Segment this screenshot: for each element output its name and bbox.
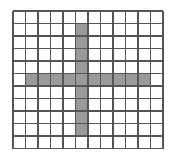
grid-cell-empty bbox=[13, 36, 26, 49]
grid-cell-empty bbox=[13, 61, 26, 74]
grid-cell-empty bbox=[51, 24, 64, 37]
grid-cell-empty bbox=[51, 61, 64, 74]
grid-cell-empty bbox=[126, 86, 139, 99]
grid-cell-empty bbox=[151, 86, 164, 99]
grid-line-vertical bbox=[112, 11, 114, 149]
grid-cell-empty bbox=[38, 99, 51, 112]
grid-cell-empty bbox=[51, 111, 64, 124]
grid-cell-empty bbox=[88, 11, 101, 24]
grid-cell-empty bbox=[51, 11, 64, 24]
grid-cell-empty bbox=[63, 11, 76, 24]
grid-cell-empty bbox=[101, 111, 114, 124]
grid-cell-empty bbox=[88, 61, 101, 74]
grid-cell-shaded bbox=[76, 36, 89, 49]
grid-cell-shaded bbox=[138, 74, 151, 87]
grid-line-vertical bbox=[25, 11, 27, 149]
grid-cell-shaded bbox=[76, 74, 89, 87]
grid-cell-empty bbox=[138, 111, 151, 124]
grid-cell-empty bbox=[126, 99, 139, 112]
grid-cell-empty bbox=[126, 61, 139, 74]
grid-cell-empty bbox=[51, 136, 64, 149]
grid-cell-empty bbox=[101, 11, 114, 24]
grid-cell-empty bbox=[113, 136, 126, 149]
grid-cell-empty bbox=[63, 86, 76, 99]
grid-cell-empty bbox=[51, 36, 64, 49]
grid-cell-empty bbox=[63, 49, 76, 62]
grid-line-vertical bbox=[12, 11, 14, 149]
grid-cell-empty bbox=[126, 111, 139, 124]
grid-cell-empty bbox=[13, 124, 26, 137]
grid-cell-empty bbox=[51, 124, 64, 137]
grid-cell-empty bbox=[51, 49, 64, 62]
grid-cell-empty bbox=[51, 86, 64, 99]
grid-cell-empty bbox=[138, 136, 151, 149]
grid-cell-empty bbox=[51, 99, 64, 112]
grid-cell-empty bbox=[101, 61, 114, 74]
grid-cell-shaded bbox=[126, 74, 139, 87]
grid-cell-empty bbox=[88, 24, 101, 37]
grid-cell-shaded bbox=[76, 49, 89, 62]
grid-cell-empty bbox=[13, 111, 26, 124]
grid-line-vertical bbox=[150, 11, 152, 149]
grid-cell-empty bbox=[151, 99, 164, 112]
grid-cell-empty bbox=[126, 49, 139, 62]
grid-cell-empty bbox=[138, 86, 151, 99]
grid-cell-empty bbox=[113, 99, 126, 112]
grid-cell-empty bbox=[113, 111, 126, 124]
grid-line-vertical bbox=[162, 11, 164, 149]
grid-cell-empty bbox=[76, 11, 89, 24]
grid-cell-empty bbox=[113, 61, 126, 74]
grid-cell-empty bbox=[63, 111, 76, 124]
grid-cell-empty bbox=[151, 24, 164, 37]
grid-cell-empty bbox=[26, 124, 39, 137]
grid-cell-shaded bbox=[76, 124, 89, 137]
grid-cell-empty bbox=[113, 49, 126, 62]
grid-cell-empty bbox=[13, 136, 26, 149]
grid-cell-empty bbox=[63, 124, 76, 137]
grid-cell-empty bbox=[151, 36, 164, 49]
grid-line-vertical bbox=[87, 11, 89, 149]
diagram-canvas bbox=[0, 0, 176, 161]
grid-cell-empty bbox=[76, 136, 89, 149]
grid-cell-empty bbox=[26, 99, 39, 112]
grid-cell-empty bbox=[63, 24, 76, 37]
grid-cell-empty bbox=[38, 111, 51, 124]
grid-cell-empty bbox=[151, 111, 164, 124]
grid-cell-empty bbox=[151, 11, 164, 24]
grid-cell-empty bbox=[113, 36, 126, 49]
grid-cell-empty bbox=[151, 61, 164, 74]
grid-cell-empty bbox=[113, 24, 126, 37]
grid-line-vertical bbox=[125, 11, 127, 149]
grid-cell-empty bbox=[101, 24, 114, 37]
grid-cell-empty bbox=[88, 111, 101, 124]
grid-cell-empty bbox=[138, 36, 151, 49]
grid-cell-empty bbox=[88, 136, 101, 149]
grid-figure bbox=[13, 11, 163, 149]
grid-cell-empty bbox=[26, 24, 39, 37]
grid-cell-shaded bbox=[26, 74, 39, 87]
grid-cell-empty bbox=[26, 36, 39, 49]
grid-cell-empty bbox=[38, 61, 51, 74]
grid-cell-empty bbox=[26, 111, 39, 124]
grid-cell-empty bbox=[88, 86, 101, 99]
grid-cell-empty bbox=[138, 99, 151, 112]
grid-cell-empty bbox=[151, 49, 164, 62]
grid-cell-empty bbox=[38, 36, 51, 49]
grid-cell-shaded bbox=[76, 86, 89, 99]
grid-cell-empty bbox=[126, 36, 139, 49]
grid-cell-empty bbox=[38, 124, 51, 137]
grid-line-vertical bbox=[37, 11, 39, 149]
grid-cell-empty bbox=[38, 24, 51, 37]
grid-cell-empty bbox=[13, 99, 26, 112]
grid-cell-empty bbox=[38, 49, 51, 62]
grid-cell-empty bbox=[26, 61, 39, 74]
grid-cell-empty bbox=[101, 136, 114, 149]
grid-cell-shaded bbox=[63, 74, 76, 87]
grid-cell-empty bbox=[13, 86, 26, 99]
grid-cell-empty bbox=[63, 61, 76, 74]
grid-line-vertical bbox=[137, 11, 139, 149]
grid-cell-empty bbox=[113, 11, 126, 24]
grid-cell-empty bbox=[13, 49, 26, 62]
grid-cell-shaded bbox=[76, 24, 89, 37]
grid-line-vertical bbox=[50, 11, 52, 149]
